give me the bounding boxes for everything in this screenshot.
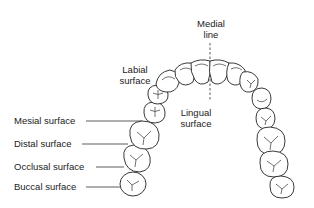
mesial-surface-label: Mesial surface bbox=[14, 115, 75, 126]
distal-surface-label: Distal surface bbox=[14, 138, 72, 149]
tooth-right-premolar-2 bbox=[256, 108, 275, 129]
dental-arch-drawing bbox=[0, 0, 314, 208]
tooth-left-premolar-2 bbox=[144, 102, 165, 123]
lingual-surface-label: Lingual surface bbox=[176, 107, 216, 129]
dental-arch-diagram: Medial line Labial surface Lingual surfa… bbox=[0, 0, 314, 208]
tooth-left-molar-1 bbox=[130, 121, 159, 149]
tooth-right-canine bbox=[240, 72, 258, 92]
tooth-right-central-incisor bbox=[209, 60, 229, 84]
tooth-right-molar-3 bbox=[270, 176, 294, 198]
tooth-right-molar-2 bbox=[260, 151, 288, 177]
buccal-surface-label: Buccal surface bbox=[14, 181, 76, 192]
occlusal-surface-label: Occlusal surface bbox=[14, 161, 84, 172]
medial-line-label: Medial line bbox=[196, 18, 226, 40]
tooth-right-premolar-1 bbox=[252, 88, 271, 109]
tooth-left-molar-3 bbox=[120, 172, 146, 196]
labial-surface-label: Labial surface bbox=[117, 64, 153, 86]
